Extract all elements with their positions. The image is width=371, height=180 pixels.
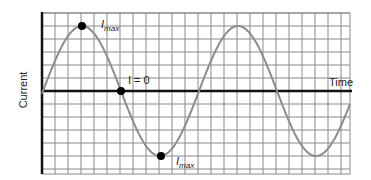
x-axis-label: Time	[329, 76, 353, 88]
zero-point-marker	[117, 87, 125, 95]
imax-top-label: Imax	[101, 18, 120, 33]
zero-label: I = 0	[128, 74, 150, 86]
imax-bottom-label: Imax	[176, 155, 195, 170]
y-axis-label: Current	[17, 65, 29, 115]
min-point-marker	[157, 152, 165, 160]
max-point-marker	[78, 22, 86, 30]
sine-wave-figure: Imax I = 0 Imax Time	[0, 0, 371, 180]
